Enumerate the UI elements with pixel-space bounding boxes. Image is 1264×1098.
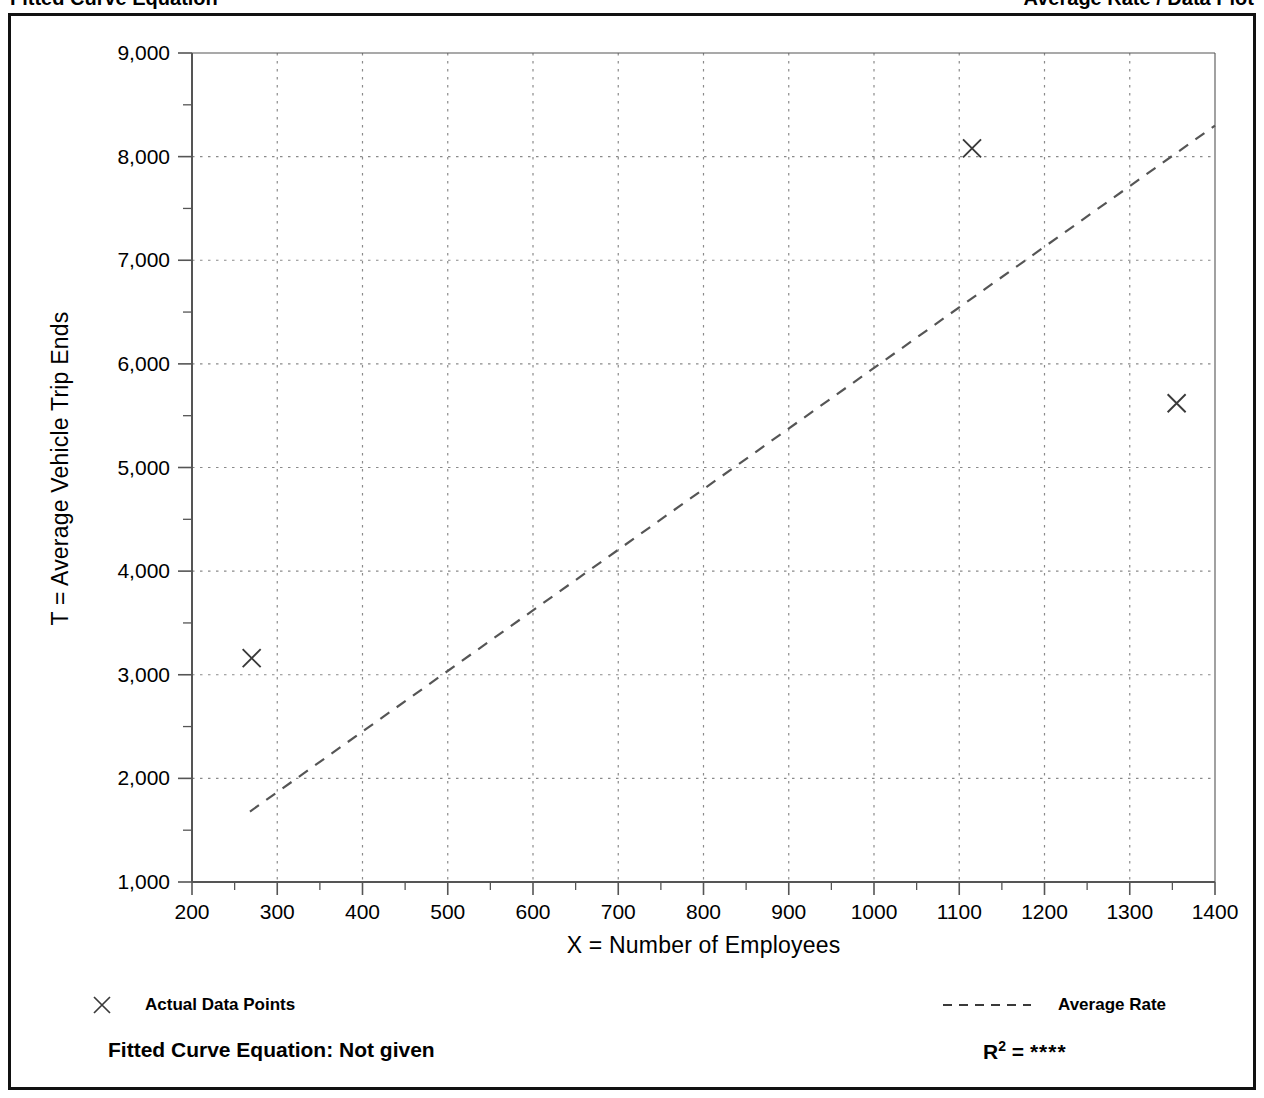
svg-text:6,000: 6,000: [117, 352, 170, 375]
grid-lines: [192, 53, 1215, 882]
svg-text:1200: 1200: [1021, 900, 1068, 923]
svg-text:200: 200: [174, 900, 209, 923]
r-squared-stars: ****: [1030, 1040, 1067, 1063]
svg-text:1100: 1100: [937, 900, 982, 923]
average-rate-trend-line: [250, 126, 1215, 812]
x-axis-title: X = Number of Employees: [192, 932, 1215, 959]
svg-text:3,000: 3,000: [117, 663, 170, 686]
legend-item-actual-data-points: Actual Data Points: [85, 988, 295, 1022]
svg-text:1400: 1400: [1192, 900, 1239, 923]
svg-text:600: 600: [515, 900, 550, 923]
major-tick-marks: [178, 53, 1215, 895]
svg-text:5,000: 5,000: [117, 456, 170, 479]
svg-text:2,000: 2,000: [117, 766, 170, 789]
svg-text:4,000: 4,000: [117, 559, 170, 582]
svg-text:900: 900: [771, 900, 806, 923]
svg-text:400: 400: [345, 900, 380, 923]
svg-text:1300: 1300: [1106, 900, 1153, 923]
actual-data-point-markers: [243, 139, 1186, 667]
legend-item-average-rate: Average Rate: [940, 988, 1166, 1022]
legend-label-actual-data-points: Actual Data Points: [145, 995, 295, 1015]
legend-label-average-rate: Average Rate: [1058, 995, 1166, 1015]
svg-text:1,000: 1,000: [117, 870, 170, 893]
r-squared-equals: =: [1006, 1040, 1030, 1063]
r-squared-symbol: R: [983, 1040, 998, 1063]
fitted-curve-equation: Fitted Curve Equation: Not given: [108, 1038, 435, 1062]
svg-text:1000: 1000: [851, 900, 898, 923]
r-squared-exponent: 2: [998, 1038, 1006, 1054]
svg-text:700: 700: [601, 900, 636, 923]
svg-text:300: 300: [260, 900, 295, 923]
chart-footer: Fitted Curve Equation: Not given R2 = **…: [0, 1038, 1264, 1078]
svg-text:7,000: 7,000: [117, 248, 170, 271]
y-axis-tick-labels: 1,0002,0003,0004,0005,0006,0007,0008,000…: [117, 41, 170, 893]
data-point-marker: [1168, 394, 1186, 412]
x-axis-tick-labels: 2003004005006007008009001000110012001300…: [174, 900, 1238, 923]
x-marker-icon: [85, 994, 119, 1016]
dashed-line-icon: [940, 999, 1034, 1011]
svg-text:9,000: 9,000: [117, 41, 170, 64]
svg-text:800: 800: [686, 900, 721, 923]
chart-legend: Actual Data Points Average Rate: [0, 988, 1264, 1022]
chart-figure: 2003004005006007008009001000110012001300…: [0, 0, 1264, 1098]
r-squared-value: R2 = ****: [983, 1038, 1067, 1064]
svg-text:8,000: 8,000: [117, 145, 170, 168]
data-point-marker: [243, 649, 261, 667]
minor-tick-marks: [183, 105, 1172, 890]
data-point-marker: [963, 139, 981, 157]
svg-text:500: 500: [430, 900, 465, 923]
y-axis-title: T = Average Vehicle Trip Ends: [47, 259, 74, 679]
